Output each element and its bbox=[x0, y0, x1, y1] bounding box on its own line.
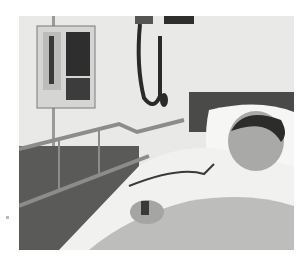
photo-scene bbox=[19, 16, 294, 250]
stray-mark bbox=[6, 216, 9, 219]
hand-with-pulse-oximeter bbox=[130, 200, 164, 224]
hospital-photo bbox=[19, 16, 294, 250]
iv-pump bbox=[37, 26, 95, 108]
